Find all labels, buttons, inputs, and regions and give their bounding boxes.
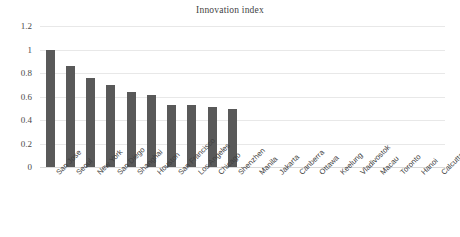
y-axis-tick-label: 0.4 xyxy=(21,115,32,125)
x-axis-tick-label: San Francisco xyxy=(177,171,182,176)
x-axis-tick-label: Hanoi xyxy=(420,171,425,176)
y-axis-tick-label: 1.2 xyxy=(21,21,32,31)
x-axis-tick-label: Chicago xyxy=(217,171,222,176)
y-axis-tick-label: 0 xyxy=(28,162,33,172)
x-axis-tick-label: San Jose xyxy=(55,171,60,176)
x-axis-tick-label: Los Angeles xyxy=(197,171,202,176)
x-axis-tick-label: Seoul xyxy=(75,171,80,176)
x-axis-tick-label: Calcutta xyxy=(440,171,445,176)
x-axis-tick-label: Vladivostok xyxy=(359,171,364,176)
x-axis-tick-label: Houston xyxy=(156,171,161,176)
x-axis-tick-label: Jakarta xyxy=(278,171,283,176)
x-axis-tick-label: Canberra xyxy=(298,171,303,176)
chart-title: Innovation index xyxy=(0,5,460,15)
x-axis: San JoseSeoulNew YorkSan DiegoShanghaiHo… xyxy=(40,167,460,237)
y-axis-tick-label: 0.6 xyxy=(21,92,32,102)
x-axis-tick-label: Shanghai xyxy=(136,171,141,176)
x-axis-tick-label: San Diego xyxy=(116,171,121,176)
bar[interactable] xyxy=(86,78,95,167)
y-axis-tick-label: 0.2 xyxy=(21,139,32,149)
innovation-index-chart: Innovation index 00.20.40.60.811.2 San J… xyxy=(0,0,460,237)
x-axis-tick-label: Toronto xyxy=(399,171,404,176)
x-axis-tick-label: Manila xyxy=(258,171,263,176)
x-axis-tick-label: Shenzhen xyxy=(237,171,242,176)
x-axis-tick-label: Keelung xyxy=(339,171,344,176)
y-axis-tick-label: 0.8 xyxy=(21,68,32,78)
bar[interactable] xyxy=(46,50,55,168)
x-axis-tick-label: Ottawa xyxy=(318,171,323,176)
x-axis-tick-label: New York xyxy=(96,171,101,176)
y-axis-tick-label: 1 xyxy=(28,45,33,55)
x-axis-tick-label: Macau xyxy=(379,171,384,176)
y-axis: 00.20.40.60.811.2 xyxy=(0,26,36,167)
